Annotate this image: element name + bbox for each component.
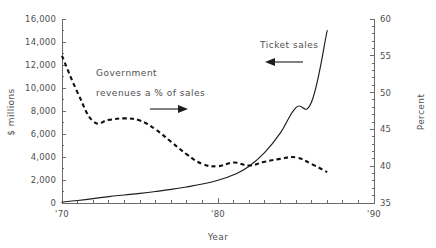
- axes: [62, 19, 374, 203]
- y-tick-label-left: 8,000: [31, 106, 56, 116]
- y-tick-label-right: 55: [380, 51, 391, 61]
- y-tick-label-left: 16,000: [25, 14, 56, 24]
- y-axis-title-right: Percent: [416, 94, 426, 131]
- x-tick-label: '80: [211, 209, 225, 219]
- y-tick-label-right: 35: [380, 198, 391, 208]
- annotation-line-1: Government: [96, 68, 157, 78]
- ticket-sales-annotation: Ticket sales: [259, 40, 318, 66]
- data-series: [62, 31, 327, 203]
- x-tick-label: '70: [55, 209, 69, 219]
- y-tick-label-left: 4,000: [31, 152, 56, 162]
- chart-container: 02,0004,0006,0008,00010,00012,00014,0001…: [0, 0, 436, 248]
- arrow-left-icon: [265, 58, 303, 66]
- y-tick-label-right: 45: [380, 124, 391, 134]
- government-revenues-annotation: Government revenues a % of sales: [96, 68, 205, 113]
- y-tick-label-right: 40: [380, 161, 391, 171]
- annotation-line-2: revenues a % of sales: [96, 88, 205, 98]
- y-tick-label-left: 0: [50, 198, 56, 208]
- annotation-line-1: Ticket sales: [259, 40, 318, 50]
- dual-axis-line-chart: 02,0004,0006,0008,00010,00012,00014,0001…: [0, 0, 436, 248]
- y-tick-label-left: 6,000: [31, 129, 56, 139]
- y-tick-label-left: 12,000: [25, 60, 56, 70]
- y-tick-label-left: 14,000: [25, 37, 56, 47]
- arrow-right-icon: [150, 105, 188, 113]
- x-axis-title: Year: [207, 232, 229, 242]
- y-tick-label-right: 50: [380, 88, 391, 98]
- x-tick-label: '90: [367, 209, 381, 219]
- y-tick-label-right: 60: [380, 14, 391, 24]
- y-tick-label-left: 2,000: [31, 175, 56, 185]
- y-axis-title-left: $ millions: [6, 88, 16, 135]
- series-line-solid: [62, 31, 327, 203]
- tick-labels: 02,0004,0006,0008,00010,00012,00014,0001…: [25, 14, 391, 219]
- y-tick-label-left: 10,000: [25, 83, 56, 93]
- tick-marks: [62, 19, 374, 203]
